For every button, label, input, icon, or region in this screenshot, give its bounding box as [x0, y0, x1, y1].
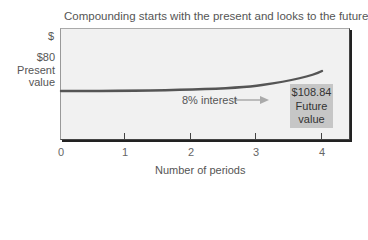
- x-tick-label-1: 1: [115, 146, 135, 158]
- future-value-text-1: Future: [290, 100, 333, 114]
- x-tick-label-2: 2: [181, 146, 201, 158]
- future-value-text-2: value: [290, 113, 333, 127]
- future-value-box: $108.84 Future value: [290, 84, 333, 128]
- x-tick-label-4: 4: [312, 146, 332, 158]
- x-axis-label: Number of periods: [155, 164, 246, 176]
- x-tick-label-0: 0: [51, 146, 71, 158]
- compounding-curve: [61, 71, 322, 91]
- interest-label: 8% interest: [182, 94, 237, 106]
- future-value-amount: $108.84: [290, 86, 333, 100]
- arrow-icon: [235, 96, 269, 104]
- x-axis-ticks: [125, 133, 322, 139]
- x-tick-label-3: 3: [246, 146, 266, 158]
